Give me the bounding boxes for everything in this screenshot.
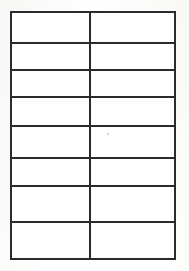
table-cell[interactable] xyxy=(12,71,91,96)
table-row xyxy=(12,71,174,98)
table-row xyxy=(12,98,174,127)
table-cell[interactable] xyxy=(12,44,91,69)
table-cell-text xyxy=(12,127,89,129)
table-cell[interactable] xyxy=(91,159,174,185)
table-cell[interactable] xyxy=(91,44,174,69)
table-cell[interactable] xyxy=(12,223,91,258)
table-cell-text xyxy=(91,98,174,100)
table-row xyxy=(12,223,174,258)
table-cell-text xyxy=(91,13,174,15)
table-cell[interactable] xyxy=(12,159,91,185)
table-cell[interactable] xyxy=(12,187,91,221)
blank-table-grid xyxy=(10,11,176,260)
table-cell[interactable] xyxy=(12,98,91,125)
table-row xyxy=(12,159,174,187)
table-cell[interactable] xyxy=(91,98,174,125)
table-cell[interactable] xyxy=(91,127,174,158)
table-cell[interactable] xyxy=(91,71,174,96)
table-row xyxy=(12,127,174,160)
table-cell-text xyxy=(91,71,174,73)
table-row xyxy=(12,187,174,223)
table-cell[interactable] xyxy=(91,13,174,42)
table-cell-text xyxy=(12,159,89,161)
table-cell-text xyxy=(12,98,89,100)
table-cell-text xyxy=(12,71,89,73)
table-cell-text xyxy=(91,127,174,129)
table-cell-text xyxy=(91,223,174,225)
table-cell-text xyxy=(12,13,89,15)
table-cell-text xyxy=(91,187,174,189)
table-cell[interactable] xyxy=(91,223,174,258)
table-row xyxy=(12,13,174,44)
table-cell[interactable] xyxy=(12,127,91,158)
table-cell-text xyxy=(12,44,89,46)
table-cell[interactable] xyxy=(91,187,174,221)
table-cell-text xyxy=(91,159,174,161)
table-cell-text xyxy=(91,44,174,46)
table-cell[interactable] xyxy=(12,13,91,42)
table-row xyxy=(12,44,174,71)
table-cell-text xyxy=(12,187,89,189)
scanned-page xyxy=(0,0,189,271)
table-cell-text xyxy=(12,223,89,225)
